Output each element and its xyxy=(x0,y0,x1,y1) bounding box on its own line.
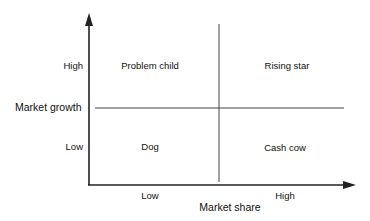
y-axis-arrow-icon xyxy=(85,13,93,26)
quadrant-dog: Dog xyxy=(141,142,158,152)
x-tick-high: High xyxy=(275,191,295,201)
y-tick-high: High xyxy=(63,61,83,71)
x-axis-title: Market share xyxy=(199,202,260,213)
x-tick-low: Low xyxy=(141,191,158,201)
quadrant-cash-cow: Cash cow xyxy=(264,143,306,153)
quadrant-problem-child: Problem child xyxy=(121,61,179,71)
y-axis-title: Market growth xyxy=(15,102,82,113)
x-axis-arrow-icon xyxy=(343,181,356,189)
y-tick-low: Low xyxy=(66,142,83,152)
quadrant-rising-star: Rising star xyxy=(265,61,310,71)
